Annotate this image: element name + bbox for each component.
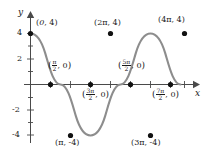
paren-close: ) <box>68 60 72 70</box>
paren-close: ) <box>141 60 145 70</box>
paren-close: ) <box>54 18 57 27</box>
paren-close: ) <box>175 89 179 99</box>
point-label-2pi-4: (2π, 4) <box>94 19 121 27</box>
zero-label-7halfpi: (7π2, 0) <box>152 88 179 101</box>
fraction-3halfpi: 3π2 <box>86 88 96 101</box>
paren-close: ) <box>157 138 160 147</box>
y-tick-label-2: 2 <box>17 55 22 63</box>
y-axis-arrow-icon <box>27 11 34 18</box>
paren-close: ) <box>76 138 79 147</box>
fraction-denominator: 2 <box>86 94 96 101</box>
zero-label-halfpi: (π2, 0) <box>48 59 71 72</box>
y-tick-label-minus4: -4 <box>12 131 20 139</box>
fraction-numerator: 3π <box>86 88 96 94</box>
fraction-halfpi: π2 <box>52 59 58 72</box>
point-4pi-4 <box>182 31 187 36</box>
point-2pi-4 <box>108 31 113 36</box>
x-value: 3π <box>134 138 144 147</box>
x-value: 2π <box>97 18 107 27</box>
zero-label-5halfpi: (5π2, 0) <box>118 59 145 72</box>
fraction-denominator: 2 <box>122 65 132 72</box>
paren-close: ) <box>182 15 185 24</box>
fraction-numerator: 5π <box>122 59 132 65</box>
point-0-4 <box>28 31 33 36</box>
point-label-4pi-4: (4π, 4) <box>158 16 185 24</box>
zero-label-3halfpi: (3π2, 0) <box>82 88 109 101</box>
x-value: 4π <box>161 15 171 24</box>
point-label-3pi-neg4: (3π, -4) <box>131 139 161 147</box>
y-axis-label: y <box>18 8 23 17</box>
cosine-graph-figure: y x 4 2 -2 -4 (0, 4) (2π, 4) (4π, 4) (π,… <box>0 0 210 151</box>
point-label-pi-neg4: (π, -4) <box>55 139 79 147</box>
y-tick-label-4: 4 <box>17 29 22 37</box>
fraction-7halfpi: 7π2 <box>156 88 166 101</box>
paren-close: ) <box>105 89 109 99</box>
point-label-0-4: (0, 4) <box>36 19 58 27</box>
x-axis-label: x <box>195 89 200 98</box>
fraction-numerator: 7π <box>156 88 166 94</box>
paren-close: ) <box>118 18 121 27</box>
point-halfpi-0 <box>48 82 53 87</box>
fraction-denominator: 2 <box>52 65 58 72</box>
point-5halfpi-0 <box>128 82 133 87</box>
y-tick-label-minus2: -2 <box>12 106 20 114</box>
point-7halfpi-0 <box>168 82 173 87</box>
fraction-denominator: 2 <box>156 94 166 101</box>
fraction-5halfpi: 5π2 <box>122 59 132 72</box>
